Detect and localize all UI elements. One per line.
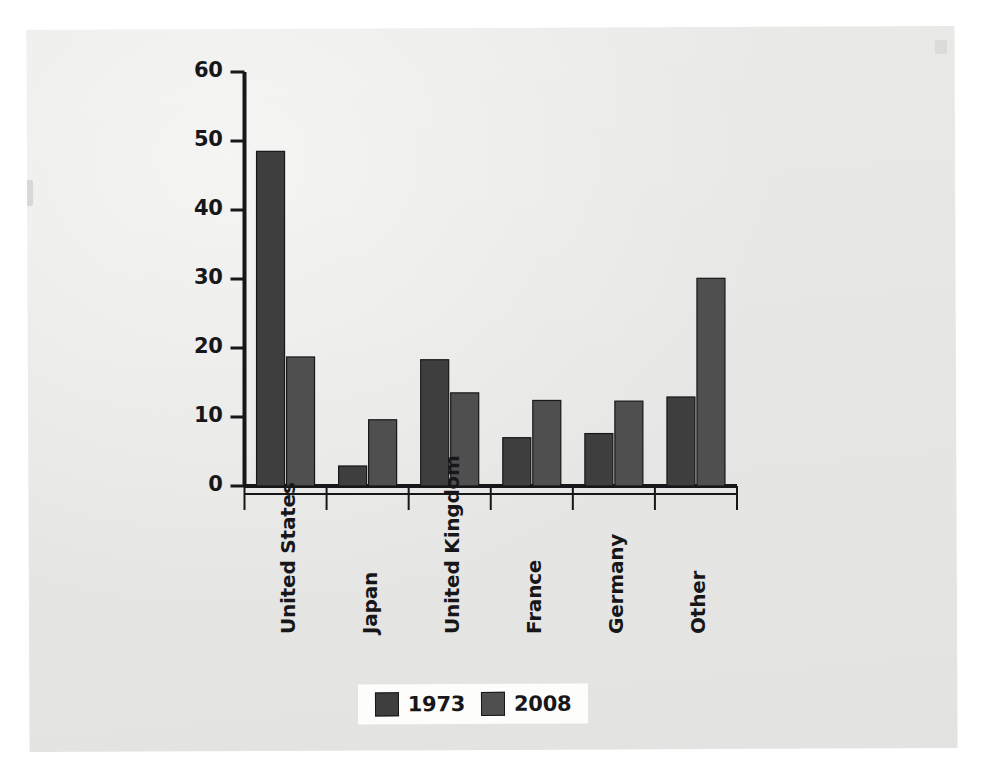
y-tick-label: 20 (177, 334, 223, 358)
plot-area (0, 0, 985, 782)
x-category-label-other: Other (686, 571, 710, 634)
y-tick-label: 40 (177, 196, 223, 220)
y-tick-label: 50 (177, 127, 223, 151)
chart-legend: 1973 2008 (358, 683, 588, 724)
y-tick-label: 0 (177, 472, 223, 496)
bar-1973-france (503, 438, 531, 486)
legend-entry-2008[interactable]: 2008 (481, 692, 571, 716)
x-category-label-germany: Germany (604, 534, 628, 634)
x-category-label-united-kingdom: United Kingdom (440, 455, 464, 634)
x-category-label-france: France (522, 560, 546, 634)
x-category-label-united-states: United States (276, 482, 300, 634)
y-tick-marks (231, 72, 245, 486)
legend-swatch-1973 (375, 692, 399, 716)
bar-2008-japan (369, 420, 397, 486)
y-tick-label: 30 (177, 265, 223, 289)
x-category-label-japan: Japan (358, 572, 382, 634)
bar-2008-other (697, 278, 725, 486)
legend-label-2008: 2008 (514, 692, 571, 716)
bar-2008-germany (615, 401, 643, 486)
legend-entry-1973[interactable]: 1973 (375, 692, 465, 716)
y-tick-label: 10 (177, 403, 223, 427)
bar-1973-japan (339, 466, 367, 486)
bar-group-container (257, 151, 725, 486)
x-tick-marks (245, 486, 738, 510)
bar-2008-united-states (287, 357, 315, 486)
bar-1973-united-states (257, 151, 285, 486)
bar-1973-germany (585, 434, 613, 486)
bar-2008-france (533, 400, 561, 486)
y-tick-label: 60 (177, 58, 223, 82)
legend-swatch-2008 (481, 692, 505, 716)
bar-chart: 0102030405060 United StatesJapanUnited K… (0, 0, 985, 782)
legend-label-1973: 1973 (408, 692, 465, 716)
bar-1973-other (667, 397, 695, 486)
